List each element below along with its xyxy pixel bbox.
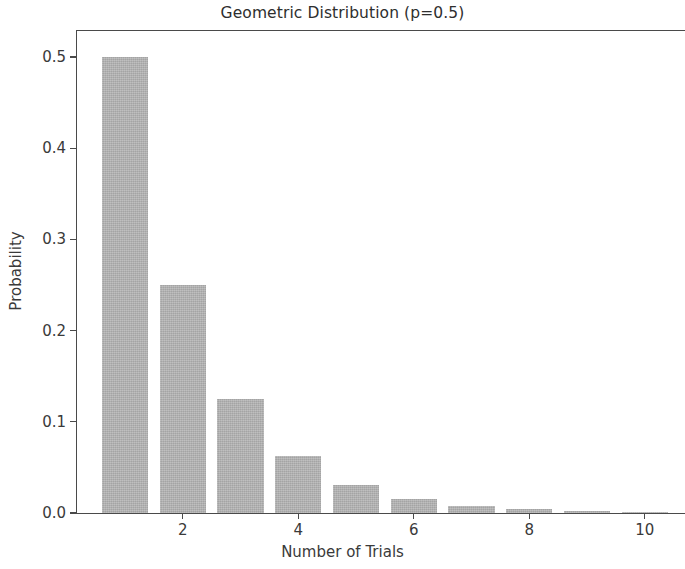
bars-layer	[0, 0, 685, 513]
x-axis-spine	[76, 513, 685, 514]
top-spine	[76, 30, 685, 31]
x-tick-label: 4	[293, 521, 303, 539]
y-tick-mark	[70, 239, 76, 240]
y-axis-spine	[76, 30, 77, 514]
y-tick-label: 0.3	[42, 230, 66, 248]
bar	[160, 285, 206, 513]
y-tick-label: 0.1	[42, 413, 66, 431]
y-tick-label: 0.4	[42, 139, 66, 157]
y-tick-label: 0.2	[42, 322, 66, 340]
x-tick-mark	[529, 513, 530, 519]
x-tick-mark	[298, 513, 299, 519]
x-tick-label: 10	[635, 521, 654, 539]
x-tick-label: 2	[178, 521, 188, 539]
x-tick-label: 8	[524, 521, 534, 539]
x-tick-mark	[413, 513, 414, 519]
bar	[275, 456, 321, 513]
y-tick-label: 0.5	[42, 48, 66, 66]
x-tick-label: 6	[409, 521, 419, 539]
y-tick-mark	[70, 512, 76, 513]
chart-figure: Geometric Distribution (p=0.5) 0.00.10.2…	[0, 0, 685, 569]
y-axis-label: Probability	[7, 231, 25, 310]
y-tick-mark	[70, 421, 76, 422]
bar	[217, 399, 263, 513]
y-tick-label: 0.0	[42, 504, 66, 522]
bar	[102, 57, 148, 513]
x-axis-label: Number of Trials	[0, 543, 685, 561]
x-tick-mark	[644, 513, 645, 519]
y-tick-mark	[70, 56, 76, 57]
bar	[333, 485, 379, 514]
x-tick-mark	[182, 513, 183, 519]
y-tick-mark	[70, 148, 76, 149]
bar	[391, 499, 437, 513]
y-tick-mark	[70, 330, 76, 331]
